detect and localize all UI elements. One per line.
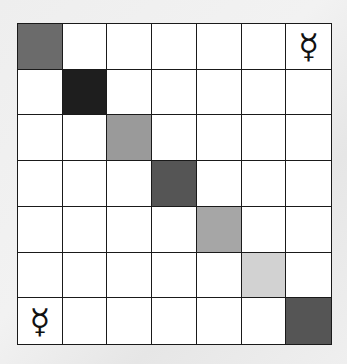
shaded-cell-r1-c1[interactable] <box>63 70 108 116</box>
grid-cell-r2-c1[interactable] <box>63 115 108 161</box>
grid-cell-r3-c5[interactable] <box>242 161 287 207</box>
grid-cell-r6-c4[interactable] <box>197 298 242 344</box>
mercury-icon: ☿ <box>29 304 50 338</box>
shaded-cell-r4-c4[interactable] <box>197 207 242 253</box>
grid-cell-r6-c2[interactable] <box>107 298 152 344</box>
grid-cell-r5-c4[interactable] <box>197 253 242 299</box>
grid-cell-r5-c0[interactable] <box>18 253 63 299</box>
grid-cell-r0-c5[interactable] <box>242 24 287 70</box>
grid-cell-r6-c3[interactable] <box>152 298 197 344</box>
grid-cell-r1-c3[interactable] <box>152 70 197 116</box>
grid-cell-r2-c6[interactable] <box>286 115 331 161</box>
grid-cell-r0-c6[interactable]: ☿ <box>286 24 331 70</box>
grid-cell-r4-c3[interactable] <box>152 207 197 253</box>
grid-cell-r5-c2[interactable] <box>107 253 152 299</box>
grid-cell-r1-c4[interactable] <box>197 70 242 116</box>
shaded-cell-r5-c5[interactable] <box>242 253 287 299</box>
grid-cell-r1-c2[interactable] <box>107 70 152 116</box>
grid-cell-r1-c6[interactable] <box>286 70 331 116</box>
grid-cell-r1-c5[interactable] <box>242 70 287 116</box>
grid-cell-r4-c5[interactable] <box>242 207 287 253</box>
grid-cell-r3-c6[interactable] <box>286 161 331 207</box>
grid-cell-r1-c0[interactable] <box>18 70 63 116</box>
grid-cell-r0-c4[interactable] <box>197 24 242 70</box>
grid-cell-r4-c6[interactable] <box>286 207 331 253</box>
grid-cell-r6-c0[interactable]: ☿ <box>18 298 63 344</box>
grid-cell-r6-c1[interactable] <box>63 298 108 344</box>
grid-cell-r4-c1[interactable] <box>63 207 108 253</box>
grid-cell-r3-c0[interactable] <box>18 161 63 207</box>
shaded-cell-r6-c6[interactable] <box>286 298 331 344</box>
grid-cell-r5-c6[interactable] <box>286 253 331 299</box>
grid-cell-r4-c0[interactable] <box>18 207 63 253</box>
grid-cell-r0-c3[interactable] <box>152 24 197 70</box>
grid-cell-r6-c5[interactable] <box>242 298 287 344</box>
grid-cell-r0-c1[interactable] <box>63 24 108 70</box>
grid-cell-r2-c0[interactable] <box>18 115 63 161</box>
grid-cell-r5-c1[interactable] <box>63 253 108 299</box>
grid-cell-r2-c3[interactable] <box>152 115 197 161</box>
shaded-cell-r0-c0[interactable] <box>18 24 63 70</box>
grid-cell-r5-c3[interactable] <box>152 253 197 299</box>
grid-cell-r2-c4[interactable] <box>197 115 242 161</box>
grid-cell-r2-c5[interactable] <box>242 115 287 161</box>
grid-cell-r3-c2[interactable] <box>107 161 152 207</box>
grid-cell-r3-c1[interactable] <box>63 161 108 207</box>
shaded-cell-r3-c3[interactable] <box>152 161 197 207</box>
puzzle-grid: ☿☿ <box>17 23 332 345</box>
grid-cell-r0-c2[interactable] <box>107 24 152 70</box>
grid-cell-r3-c4[interactable] <box>197 161 242 207</box>
mercury-icon: ☿ <box>298 29 319 63</box>
grid-cell-r4-c2[interactable] <box>107 207 152 253</box>
shaded-cell-r2-c2[interactable] <box>107 115 152 161</box>
